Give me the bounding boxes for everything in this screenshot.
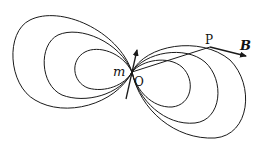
position-vector-OP — [132, 47, 210, 72]
field-line-left-outer — [13, 16, 132, 109]
field-line-right-outer — [132, 46, 246, 138]
origin-label: O — [134, 75, 144, 89]
field-lines-right — [132, 46, 246, 138]
field-lines-left — [13, 16, 132, 109]
point-label: P — [205, 33, 213, 47]
moment-label: m — [113, 64, 125, 79]
field-label: B — [239, 38, 251, 53]
dipole-diagram: m O P B — [0, 0, 263, 148]
